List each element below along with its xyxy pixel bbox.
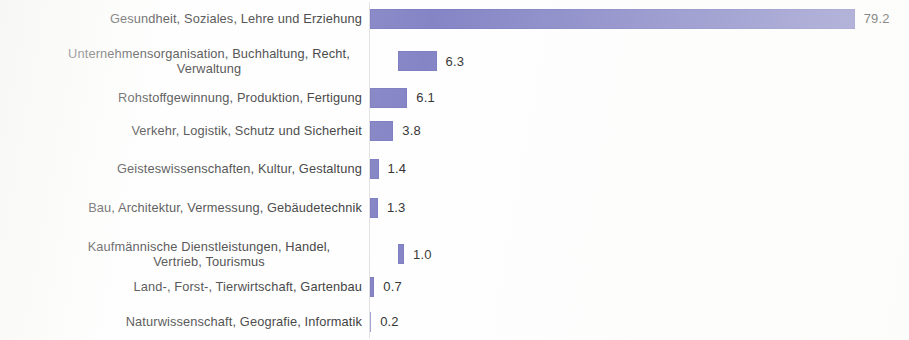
bar-track: 0.7 [370,276,909,297]
bar-row: Bau, Architektur, Vermessung, Gebäudetec… [0,197,909,218]
bar-chart: Gesundheit, Soziales, Lehre und Erziehun… [0,0,909,340]
bar-row: Verkehr, Logistik, Schutz und Sicherheit… [0,120,909,141]
bar-value-label: 6.3 [446,54,464,69]
bar-rows-container: Gesundheit, Soziales, Lehre und Erziehun… [0,0,909,340]
category-label: Gesundheit, Soziales, Lehre und Erziehun… [0,11,362,27]
category-label: Unternehmensorganisation, Buchhaltung, R… [0,46,390,77]
bar-value-label: 1.3 [387,200,405,215]
category-label: Naturwissenschaft, Geografie, Informatik [0,314,362,330]
bar [398,244,404,264]
bar-track: 6.3 [398,40,909,82]
bar-row: Naturwissenschaft, Geografie, Informatik… [0,311,909,332]
bar-row: Gesundheit, Soziales, Lehre und Erziehun… [0,8,909,29]
bar [370,312,371,332]
bar-row: Kaufmännische Dienstleistungen, Handel, … [0,233,909,275]
bar-row: Geisteswissenschaften, Kultur, Gestaltun… [0,158,909,179]
bar [370,198,378,218]
bar-track: 6.1 [370,87,909,108]
bar-track: 1.3 [370,197,909,218]
bar-value-label: 0.2 [380,314,398,329]
bar-row: Rohstoffgewinnung, Produktion, Fertigung… [0,87,909,108]
bar [398,51,437,71]
category-label: Bau, Architektur, Vermessung, Gebäudetec… [0,200,362,216]
bar-value-label: 3.8 [402,123,420,138]
category-label: Geisteswissenschaften, Kultur, Gestaltun… [0,161,362,177]
bar [370,277,374,297]
bar [370,9,855,29]
bar-track: 1.0 [398,233,909,275]
bar-value-label: 79.2 [864,11,890,26]
bar-row: Unternehmensorganisation, Buchhaltung, R… [0,40,909,82]
category-label: Kaufmännische Dienstleistungen, Handel, … [0,239,390,270]
category-label: Rohstoffgewinnung, Produktion, Fertigung [0,90,362,106]
bar-track: 0.2 [370,311,909,332]
bar-track: 3.8 [370,120,909,141]
bar-value-label: 1.0 [413,247,431,262]
bar-row: Land-, Forst-, Tierwirtschaft, Gartenbau… [0,276,909,297]
bar [370,159,379,179]
bar-value-label: 0.7 [383,279,401,294]
bar [370,121,393,141]
category-label: Land-, Forst-, Tierwirtschaft, Gartenbau [0,279,362,295]
category-label: Verkehr, Logistik, Schutz und Sicherheit [0,123,362,139]
bar-value-label: 1.4 [388,161,406,176]
bar-track: 1.4 [370,158,909,179]
bar-track: 79.2 [370,8,909,29]
bar [370,88,407,108]
bar-value-label: 6.1 [416,90,434,105]
